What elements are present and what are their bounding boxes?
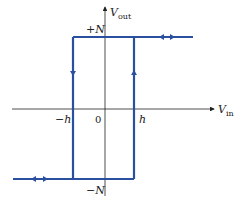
hysteresis-diagram: Vout Vin +N −N −h 0 h <box>0 0 244 204</box>
hysteresis-curve <box>13 37 193 179</box>
arrow-right-icon <box>43 176 48 182</box>
arrow-up-icon <box>131 70 137 75</box>
y-axis-label: Vout <box>110 6 132 21</box>
h-label: h <box>139 113 146 126</box>
arrow-right-icon <box>170 34 175 40</box>
arrow-down-icon <box>70 71 76 76</box>
arrow-left-icon <box>31 176 36 182</box>
arrow-left-icon <box>159 34 164 40</box>
x-axis-label: Vin <box>218 103 234 118</box>
origin-label: 0 <box>95 114 101 125</box>
minus-n-label: −N <box>86 184 105 197</box>
plus-n-label: +N <box>86 23 105 36</box>
diagram-canvas: Vout Vin +N −N −h 0 h <box>0 0 244 204</box>
minus-h-label: −h <box>55 113 71 126</box>
direction-arrows <box>31 34 175 182</box>
